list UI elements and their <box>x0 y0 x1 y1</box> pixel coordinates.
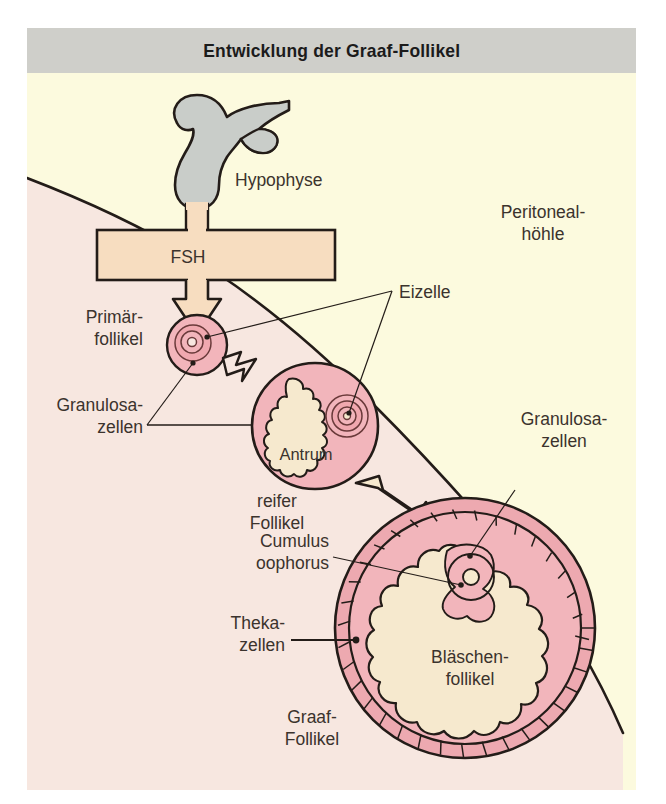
label-peritoneal-line2: höhle <box>522 224 565 244</box>
follicle-development-diagram: Hypophyse FSH Peritoneal- h <box>27 73 636 790</box>
label-cumulus-line2: oophorus <box>256 553 329 573</box>
primary-follicle <box>167 315 227 375</box>
primary-follicle-oocyte <box>188 338 197 347</box>
label-graaffollikel-line1: Graaf- <box>287 707 337 727</box>
label-blaeschenfollikel-line2: follikel <box>446 669 495 689</box>
label-granulosa-right-line1: Granulosa- <box>521 409 608 429</box>
figure-title: Entwicklung der Graaf-Follikel <box>203 40 460 62</box>
diagram-canvas: Hypophyse FSH Peritoneal- h <box>27 73 636 790</box>
label-granulosa-left-line1: Granulosa- <box>56 395 143 415</box>
label-reifer-follikel-line1: reifer <box>257 491 297 511</box>
graaf-follicle-oocyte <box>463 569 479 585</box>
fsh-box <box>97 230 335 280</box>
label-granulosa-right-line2: zellen <box>541 431 587 451</box>
label-fsh: FSH <box>171 247 206 267</box>
figure-title-bar: Entwicklung der Graaf-Follikel <box>27 28 636 73</box>
label-reifer-follikel-line2: Follikel <box>250 513 304 533</box>
graaf-follicle <box>335 498 595 758</box>
label-theka-line2: zellen <box>239 635 285 655</box>
label-granulosa-left-line2: zellen <box>97 417 143 437</box>
label-hypophyse: Hypophyse <box>235 170 323 190</box>
label-blaeschenfollikel-line1: Bläschen- <box>431 647 509 667</box>
label-graaffollikel-line2: Follikel <box>285 729 339 749</box>
label-cumulus-line1: Cumulus <box>260 531 329 551</box>
label-primaerfollikel-line1: Primär- <box>86 307 144 327</box>
label-theka-line1: Theka- <box>231 613 286 633</box>
mature-follicle <box>252 363 378 489</box>
label-peritoneal-line1: Peritoneal- <box>501 202 586 222</box>
label-eizelle: Eizelle <box>399 282 451 302</box>
label-antrum: Antrum <box>279 445 332 463</box>
figure-root: Entwicklung der Graaf-Follikel <box>0 0 666 804</box>
label-primaerfollikel-line2: follikel <box>94 329 143 349</box>
